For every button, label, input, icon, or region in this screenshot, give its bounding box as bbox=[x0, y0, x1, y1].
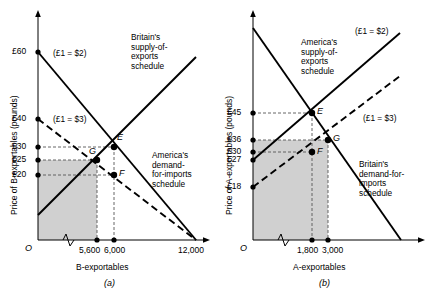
point-label-F-a: F bbox=[119, 168, 125, 178]
origin-label-a: O bbox=[25, 243, 32, 253]
schedule-label-britain-supply: Britain's supply-of- exports schedule bbox=[131, 33, 167, 71]
x-axis-title-b: A-exportables bbox=[293, 262, 345, 272]
rate-label-b-1: (£1 = $3) bbox=[363, 113, 396, 123]
chart-panel-b: £45 £36 £30 £27 £18 1,800 3,000 O (£1 = … bbox=[215, 0, 429, 296]
x-tick-label-a-0: 5,600 bbox=[79, 245, 100, 255]
shaded-region-a bbox=[38, 160, 97, 240]
y-tick-dot-27-b bbox=[250, 157, 255, 162]
origin-label-b: O bbox=[240, 243, 247, 253]
y-tick-dot-18-b bbox=[250, 184, 255, 189]
x-tick-label-b-0: 1,800 bbox=[297, 245, 318, 255]
schedule-line-a-d3: schedule bbox=[152, 180, 192, 190]
x-axis-arrow-a bbox=[203, 237, 210, 243]
point-label-G-b: G bbox=[333, 133, 340, 143]
point-label-G-a: G bbox=[89, 146, 96, 156]
schedule-label-america-supply: America's supply-of- exports schedule bbox=[301, 38, 337, 76]
schedule-line-b-s3: schedule bbox=[301, 67, 337, 77]
y-tick-dot-25-a bbox=[35, 157, 40, 162]
x-tick-dot-5600-a bbox=[94, 237, 99, 242]
y-tick-dot-30-b bbox=[250, 149, 255, 154]
y-tick-dot-20-a bbox=[35, 172, 40, 177]
point-E-b bbox=[309, 110, 315, 116]
rate-label-b-0: (£1 = $2) bbox=[355, 26, 388, 36]
x-axis-title-a: B-exportables bbox=[76, 262, 128, 272]
x-tick-dot-3000-b bbox=[325, 237, 330, 242]
y-tick-label-a-0: £60 bbox=[12, 46, 26, 56]
panel-caption-a: (a) bbox=[104, 278, 115, 288]
point-label-E-a: E bbox=[117, 132, 123, 142]
schedule-label-america-demand: America's demand- for-imports schedule bbox=[152, 151, 192, 189]
y-axis-title-a: Price of B-exportables (pounds) bbox=[9, 95, 19, 215]
point-F-b bbox=[309, 149, 315, 155]
point-label-F-b: F bbox=[317, 146, 323, 156]
y-tick-dot-40-a bbox=[35, 116, 40, 121]
y-tick-dot-45-b bbox=[250, 110, 255, 115]
y-axis-arrow-b bbox=[250, 10, 256, 17]
panel-caption-b: (b) bbox=[319, 278, 330, 288]
rate-label-a-0: (£1 = $2) bbox=[53, 48, 86, 58]
x-tick-dot-1800-b bbox=[309, 237, 314, 242]
y-axis-title-b: Price of A-exportables (pounds) bbox=[224, 96, 234, 215]
y-axis-arrow-a bbox=[35, 10, 41, 17]
x-tick-label-a-2: 12,000 bbox=[178, 245, 204, 255]
y-tick-dot-30-a bbox=[35, 144, 40, 149]
point-label-E-b: E bbox=[317, 106, 323, 116]
x-tick-label-b-1: 3,000 bbox=[322, 245, 343, 255]
figure-root: £60 £40 £30 £25 £20 5,600 6,000 12,000 O… bbox=[0, 0, 429, 296]
schedule-line-a-s3: schedule bbox=[131, 62, 167, 72]
schedule-line-b-d3: schedule bbox=[359, 189, 404, 199]
chart-panel-a: £60 £40 £30 £25 £20 5,600 6,000 12,000 O… bbox=[0, 0, 214, 296]
schedule-label-britain-demand: Britain's demand-for- imports schedule bbox=[359, 160, 404, 198]
y-tick-dot-60-a bbox=[35, 49, 40, 54]
point-E-a bbox=[111, 144, 117, 150]
point-G-a bbox=[94, 157, 100, 163]
point-G-b bbox=[325, 137, 331, 143]
rate-label-a-1: (£1 = $3) bbox=[53, 114, 86, 124]
x-tick-dot-6000-a bbox=[111, 237, 116, 242]
x-axis-arrow-b bbox=[418, 237, 425, 243]
x-tick-label-a-1: 6,000 bbox=[104, 245, 125, 255]
y-tick-dot-36-b bbox=[250, 137, 255, 142]
point-F-a bbox=[111, 172, 117, 178]
